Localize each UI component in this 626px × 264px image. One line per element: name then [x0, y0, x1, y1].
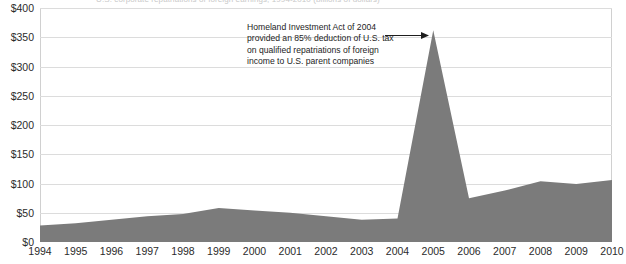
- y-axis: $0$50$100$150$200$250$300$350$400: [0, 8, 36, 242]
- annotation-line-3: on qualified repatriations of foreign: [247, 45, 412, 56]
- y-tick-label-400: $400: [0, 2, 34, 14]
- x-axis: 1994199519961997199819992000200120022003…: [40, 245, 612, 261]
- area-chart-figure: U.S. corporate repatriations of foreign …: [0, 0, 626, 264]
- y-tick-label-200: $200: [0, 119, 34, 131]
- x-tick-label-1994: 1994: [28, 245, 51, 257]
- annotation-line-4: income to U.S. parent companies: [247, 56, 412, 67]
- y-tick-label-350: $350: [0, 31, 34, 43]
- x-tick-label-2010: 2010: [600, 245, 623, 257]
- x-tick-label-2009: 2009: [565, 245, 588, 257]
- x-tick-label-1998: 1998: [171, 245, 194, 257]
- x-tick-label-2006: 2006: [457, 245, 480, 257]
- clipped-figure-title: U.S. corporate repatriations of foreign …: [96, 0, 526, 4]
- y-tick-label-50: $50: [0, 207, 34, 219]
- x-tick-label-1999: 1999: [207, 245, 230, 257]
- y-tick-label-300: $300: [0, 61, 34, 73]
- x-tick-label-2008: 2008: [529, 245, 552, 257]
- x-tick-label-1995: 1995: [64, 245, 87, 257]
- x-tick-label-2004: 2004: [386, 245, 409, 257]
- x-tick-label-2000: 2000: [243, 245, 266, 257]
- y-tick-label-100: $100: [0, 178, 34, 190]
- y-tick-label-150: $150: [0, 148, 34, 160]
- y-tick-label-250: $250: [0, 90, 34, 102]
- x-tick-label-2002: 2002: [314, 245, 337, 257]
- x-tick-label-2003: 2003: [350, 245, 373, 257]
- x-tick-label-1996: 1996: [100, 245, 123, 257]
- x-tick-label-2001: 2001: [279, 245, 302, 257]
- x-tick-label-2005: 2005: [422, 245, 445, 257]
- arrow-right-icon: [385, 31, 429, 40]
- annotation-homeland-investment-act: Homeland Investment Act of 2004provided …: [247, 22, 412, 68]
- x-tick-label-1997: 1997: [136, 245, 159, 257]
- x-tick-label-2007: 2007: [493, 245, 516, 257]
